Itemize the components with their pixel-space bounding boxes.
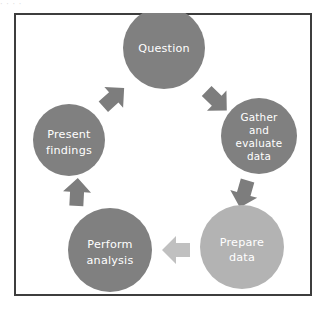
node-perform-analysis-label-line1: Perform (87, 238, 132, 251)
arrow-perform-to-present (62, 177, 91, 206)
node-question-label: Question (138, 42, 190, 55)
node-prepare-data-label-line1: Prepare (220, 236, 264, 249)
node-gather-evaluate-data-circle[interactable] (221, 98, 297, 174)
node-question[interactable]: Question (123, 13, 205, 89)
node-gather-evaluate-data[interactable]: Gather and evaluate data (221, 98, 297, 174)
node-gather-evaluate-data-label-line4: data (247, 150, 271, 162)
node-perform-analysis[interactable]: Perform analysis (68, 208, 152, 292)
arrow-present-to-question (94, 78, 134, 118)
node-gather-evaluate-data-label-line1: Gather (241, 111, 278, 123)
node-prepare-data-label-line2: data (229, 251, 255, 264)
node-gather-evaluate-data-label-line3: evaluate (236, 137, 283, 149)
node-present-findings-label-line1: Present (47, 128, 91, 141)
node-present-findings-label-line2: findings (46, 144, 92, 157)
page-text-artifact: · · · · (0, 0, 329, 9)
arrow-prepare-to-perform (162, 236, 190, 264)
node-present-findings[interactable]: Present findings (33, 104, 105, 176)
node-perform-analysis-label-line2: analysis (87, 254, 134, 267)
figure-root: · · · · (0, 0, 329, 312)
node-prepare-data[interactable]: Prepare data (200, 205, 284, 289)
node-gather-evaluate-data-label-line2: and (249, 124, 269, 136)
cycle-diagram: Question Gather and evaluate data Prepar… (14, 13, 312, 296)
